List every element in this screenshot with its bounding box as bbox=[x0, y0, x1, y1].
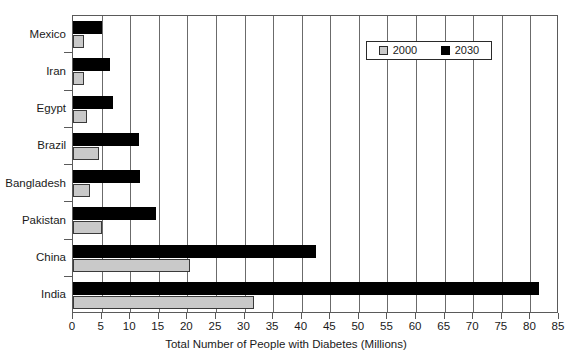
x-tick-label: 20 bbox=[171, 320, 201, 332]
x-tick-mark bbox=[444, 313, 445, 319]
bar-2030 bbox=[73, 96, 113, 109]
bar-2000 bbox=[73, 259, 190, 272]
x-tick-mark bbox=[386, 313, 387, 319]
bar-2030 bbox=[73, 282, 539, 295]
legend: 2000 2030 bbox=[366, 41, 492, 60]
x-tick-mark bbox=[501, 313, 502, 319]
x-tick-mark bbox=[186, 313, 187, 319]
y-tick-label: China bbox=[0, 251, 66, 263]
x-tick-mark bbox=[244, 313, 245, 319]
legend-label-2030: 2030 bbox=[455, 45, 479, 56]
bar-2000 bbox=[73, 35, 84, 48]
y-tick-label: Iran bbox=[0, 65, 66, 77]
y-tick-label: Bangladesh bbox=[0, 177, 66, 189]
bar-group bbox=[73, 165, 557, 202]
x-tick-mark bbox=[529, 313, 530, 319]
x-tick-label: 85 bbox=[543, 320, 572, 332]
x-tick-mark bbox=[358, 313, 359, 319]
bar-2030 bbox=[73, 170, 140, 183]
x-tick-label: 25 bbox=[200, 320, 230, 332]
x-tick-label: 30 bbox=[229, 320, 259, 332]
y-tick-mark bbox=[64, 164, 73, 165]
y-tick-label: Pakistan bbox=[0, 214, 66, 226]
x-tick-label: 5 bbox=[86, 320, 116, 332]
x-tick-mark bbox=[415, 313, 416, 319]
y-tick-mark bbox=[64, 201, 73, 202]
x-tick-label: 0 bbox=[57, 320, 87, 332]
x-tick-label: 65 bbox=[429, 320, 459, 332]
x-tick-mark bbox=[158, 313, 159, 319]
x-tick-mark bbox=[558, 313, 559, 319]
y-tick-label: Egypt bbox=[0, 102, 66, 114]
bar-2030 bbox=[73, 21, 102, 34]
x-tick-label: 80 bbox=[514, 320, 544, 332]
y-tick-mark bbox=[64, 127, 73, 128]
y-tick-label: Brazil bbox=[0, 139, 66, 151]
bar-2000 bbox=[73, 221, 102, 234]
x-tick-mark bbox=[101, 313, 102, 319]
x-tick-mark bbox=[329, 313, 330, 319]
x-tick-mark bbox=[72, 313, 73, 319]
x-tick-mark bbox=[472, 313, 473, 319]
y-tick-mark bbox=[64, 52, 73, 53]
x-tick-label: 70 bbox=[457, 320, 487, 332]
legend-entry-2030: 2030 bbox=[441, 45, 479, 56]
x-tick-label: 15 bbox=[143, 320, 173, 332]
x-tick-label: 40 bbox=[286, 320, 316, 332]
bar-2030 bbox=[73, 58, 110, 71]
bar-group bbox=[73, 128, 557, 165]
bar-rows bbox=[73, 16, 557, 312]
x-tick-label: 45 bbox=[314, 320, 344, 332]
y-tick-mark bbox=[64, 239, 73, 240]
gray-swatch-icon bbox=[379, 46, 388, 55]
bar-2000 bbox=[73, 296, 254, 309]
x-axis-title: Total Number of People with Diabetes (Mi… bbox=[0, 338, 572, 350]
bar-group bbox=[73, 240, 557, 277]
x-tick-label: 55 bbox=[371, 320, 401, 332]
y-tick-mark bbox=[64, 276, 73, 277]
x-tick-label: 10 bbox=[114, 320, 144, 332]
x-tick-label: 60 bbox=[400, 320, 430, 332]
bar-2000 bbox=[73, 147, 99, 160]
bar-2000 bbox=[73, 110, 87, 123]
bar-2030 bbox=[73, 207, 156, 220]
x-tick-label: 50 bbox=[343, 320, 373, 332]
y-tick-label: India bbox=[0, 288, 66, 300]
y-tick-label: Mexico bbox=[0, 28, 66, 40]
legend-entry-2000: 2000 bbox=[379, 45, 417, 56]
x-tick-mark bbox=[215, 313, 216, 319]
bar-group bbox=[73, 277, 557, 314]
bar-group bbox=[73, 202, 557, 239]
diabetes-bar-chart: MexicoIranEgyptBrazilBangladeshPakistanC… bbox=[0, 0, 572, 361]
x-tick-label: 35 bbox=[257, 320, 287, 332]
bar-2030 bbox=[73, 133, 139, 146]
x-tick-label: 75 bbox=[486, 320, 516, 332]
x-tick-mark bbox=[301, 313, 302, 319]
x-tick-mark bbox=[272, 313, 273, 319]
bar-2000 bbox=[73, 184, 90, 197]
x-tick-mark bbox=[129, 313, 130, 319]
bar-group bbox=[73, 91, 557, 128]
y-tick-mark bbox=[64, 90, 73, 91]
legend-label-2000: 2000 bbox=[393, 45, 417, 56]
black-swatch-icon bbox=[441, 46, 450, 55]
bar-2000 bbox=[73, 72, 84, 85]
bar-2030 bbox=[73, 245, 316, 258]
